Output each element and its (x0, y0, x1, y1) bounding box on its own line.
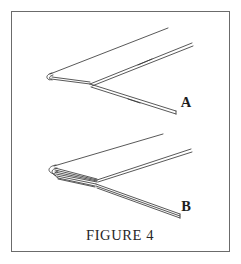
figure-container: A B FIGURE 4 (0, 0, 241, 264)
diagram-b-label: B (181, 198, 191, 214)
figure-background (0, 0, 241, 264)
diagram-a-label: A (181, 94, 192, 110)
figure-drawing: A B FIGURE 4 (0, 0, 241, 264)
figure-caption: FIGURE 4 (86, 227, 154, 243)
